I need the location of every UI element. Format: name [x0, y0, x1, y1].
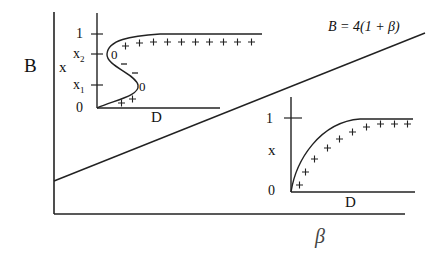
main-x-label: β — [315, 226, 325, 246]
inset-right — [284, 97, 415, 192]
fixed-point-x1-label: 0 — [139, 80, 146, 93]
plus-signs-right — [296, 121, 411, 189]
inset-left-x-label: D — [151, 110, 162, 125]
inset-left-y-label: x — [59, 60, 67, 75]
inset-left-tick-1: 1 — [76, 27, 83, 41]
inset-left-tick-x1: x1 — [73, 78, 85, 95]
boundary-line — [54, 33, 425, 181]
inset-right-y-label: x — [268, 143, 276, 158]
diagram-canvas — [0, 0, 447, 256]
inset-right-x-label: D — [345, 195, 356, 210]
inset-left-tick-x2: x2 — [73, 47, 85, 64]
main-y-label: B — [24, 56, 37, 75]
inset-right-tick-1: 1 — [266, 112, 273, 126]
boundary-line-label: B = 4(1 + β) — [328, 20, 400, 34]
inset-right-tick-0: 0 — [268, 184, 275, 198]
plus-signs-left-upper — [122, 39, 255, 50]
fixed-point-x2-label: 0 — [111, 48, 118, 61]
inset-left-tick-0: 0 — [76, 101, 83, 115]
